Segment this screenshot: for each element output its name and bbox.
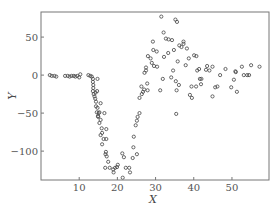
x-tick-label: 40 <box>187 182 200 193</box>
data-point <box>136 115 139 118</box>
data-point <box>122 156 125 159</box>
data-point <box>208 69 211 72</box>
data-point <box>172 48 175 51</box>
data-point <box>156 65 159 68</box>
data-point <box>176 60 179 63</box>
data-point <box>151 40 154 43</box>
data-point <box>235 90 238 93</box>
data-point <box>146 89 149 92</box>
data-point <box>184 64 187 67</box>
data-point <box>105 128 108 131</box>
data-point <box>100 127 103 130</box>
x-axis-label: X <box>148 193 158 206</box>
data-point <box>146 82 149 85</box>
data-point <box>211 65 214 68</box>
plot-frame <box>41 12 269 180</box>
data-point <box>104 166 107 169</box>
data-point <box>94 100 97 103</box>
data-point <box>174 80 177 83</box>
data-point <box>128 171 131 174</box>
data-point <box>195 85 198 88</box>
data-point <box>103 112 106 115</box>
data-point <box>170 76 173 79</box>
data-point <box>242 74 245 77</box>
data-point <box>98 121 101 124</box>
y-axis-label: Y <box>6 91 19 100</box>
data-points <box>48 15 261 179</box>
data-point <box>124 166 127 169</box>
data-point <box>230 86 233 89</box>
data-point <box>172 69 175 72</box>
data-point <box>138 96 141 99</box>
data-point <box>170 39 173 42</box>
data-point <box>175 112 178 115</box>
data-point <box>152 64 155 67</box>
y-tick-label: 50 <box>25 32 38 43</box>
data-point <box>132 135 135 138</box>
data-point <box>187 57 190 60</box>
data-point <box>224 67 227 70</box>
data-point <box>240 65 243 68</box>
x-axis-ticks: 1020304050 <box>73 177 238 193</box>
data-point <box>167 51 170 54</box>
data-point <box>250 64 253 67</box>
data-point <box>140 85 143 88</box>
data-point <box>132 146 135 149</box>
data-point <box>150 61 153 64</box>
x-tick-label: 50 <box>226 182 239 193</box>
data-point <box>138 112 141 115</box>
data-point <box>149 57 152 60</box>
data-point <box>182 40 185 43</box>
data-point <box>211 95 214 98</box>
y-tick-label: 0 <box>32 70 38 81</box>
data-point <box>175 89 178 92</box>
data-point <box>135 153 138 156</box>
data-point <box>160 15 163 18</box>
data-point <box>258 65 261 68</box>
data-point <box>199 83 202 86</box>
data-point <box>152 48 155 51</box>
data-point <box>155 50 158 53</box>
data-point <box>204 68 207 71</box>
y-tick-label: −50 <box>17 108 38 119</box>
data-point <box>121 176 124 179</box>
data-point <box>219 74 222 77</box>
x-tick-label: 20 <box>111 182 124 193</box>
data-point <box>134 124 137 127</box>
data-point <box>96 77 99 80</box>
data-point <box>121 152 124 155</box>
scatter-chart: 1020304050 500−50−100 X Y <box>0 0 278 213</box>
data-point <box>177 83 180 86</box>
data-point <box>131 156 134 159</box>
x-tick-label: 30 <box>149 182 162 193</box>
data-point <box>107 160 110 163</box>
y-tick-label: −100 <box>11 146 38 157</box>
data-point <box>128 166 131 169</box>
data-point <box>159 89 162 92</box>
data-point <box>162 31 165 34</box>
data-point <box>99 102 102 105</box>
data-point <box>190 85 193 88</box>
data-point <box>161 77 164 80</box>
data-point <box>206 64 209 67</box>
data-point <box>79 73 82 76</box>
data-point <box>101 143 104 146</box>
data-point <box>162 55 165 58</box>
data-point <box>232 78 235 81</box>
data-point <box>185 47 188 50</box>
data-point <box>188 93 191 96</box>
x-tick-label: 10 <box>73 182 86 193</box>
data-point <box>190 96 193 99</box>
data-point <box>108 166 111 169</box>
data-point <box>135 119 138 122</box>
